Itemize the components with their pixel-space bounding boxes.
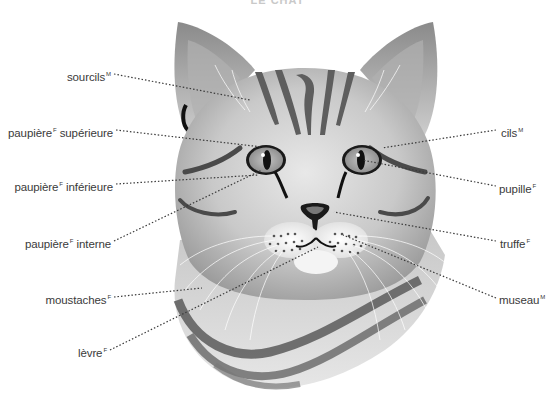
- label-text: cils: [501, 127, 517, 139]
- label-paupiere-interne: paupièreF interne: [25, 234, 111, 251]
- label-paupiere-inferieure: paupièreF inférieure: [14, 177, 113, 194]
- label-pupille: pupilleF: [499, 179, 536, 196]
- label-truffe: truffeF: [500, 234, 530, 251]
- gender-marker: M: [540, 294, 545, 300]
- label-sourcils: sourcilsM: [67, 67, 111, 84]
- gender-marker: F: [59, 181, 63, 187]
- gender-marker: M: [518, 127, 523, 133]
- label-text-qualifier: inférieure: [66, 181, 113, 193]
- label-text: paupière: [25, 238, 69, 250]
- gender-marker: F: [70, 238, 74, 244]
- cat-anatomy-diagram: LE CHAT: [0, 0, 555, 409]
- label-museau: museauM: [499, 290, 545, 307]
- label-text: sourcils: [67, 71, 105, 83]
- gender-marker: F: [526, 238, 530, 244]
- label-levre: lèvreF: [78, 343, 107, 360]
- label-text: museau: [499, 294, 539, 306]
- label-text-qualifier: supérieure: [60, 127, 113, 139]
- label-text: lèvre: [78, 347, 102, 359]
- label-text: paupière: [8, 127, 52, 139]
- gender-marker: F: [103, 347, 107, 353]
- label-cils: cilsM: [501, 123, 523, 140]
- gender-marker: M: [106, 71, 111, 77]
- gender-marker: F: [53, 127, 57, 133]
- label-text: moustaches: [45, 294, 106, 306]
- label-text: pupille: [499, 183, 532, 195]
- gender-marker: F: [107, 294, 111, 300]
- label-paupiere-superieure: paupièreF supérieure: [8, 123, 113, 140]
- label-text-qualifier: interne: [77, 238, 111, 250]
- label-moustaches: moustachesF: [45, 290, 111, 307]
- label-text: truffe: [500, 238, 525, 250]
- gender-marker: F: [533, 183, 537, 189]
- label-text: paupière: [14, 181, 58, 193]
